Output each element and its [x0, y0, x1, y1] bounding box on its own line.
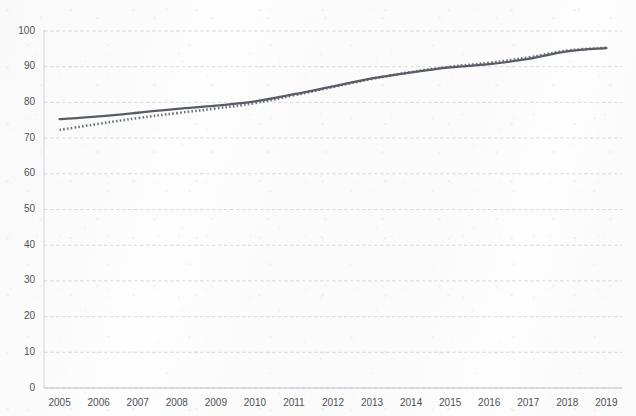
axis-lines: [44, 30, 622, 388]
x-tick-label-2010: 2010: [235, 397, 275, 408]
x-tick-label-2018: 2018: [547, 397, 587, 408]
x-tick-label-2019: 2019: [586, 397, 626, 408]
x-tick-label-2017: 2017: [508, 397, 548, 408]
x-tick-label-2013: 2013: [352, 397, 392, 408]
x-tick-label-2007: 2007: [118, 397, 158, 408]
x-tick-label-2016: 2016: [469, 397, 509, 408]
x-tick-label-2014: 2014: [391, 397, 431, 408]
y-tick-label-80: 80: [0, 96, 35, 107]
x-tick-label-2015: 2015: [430, 397, 470, 408]
x-tick-label-2011: 2011: [274, 397, 314, 408]
y-tick-label-50: 50: [0, 203, 35, 214]
y-tick-label-70: 70: [0, 132, 35, 143]
line-chart: 0102030405060708090100 20052006200720082…: [0, 0, 636, 416]
series-line-1-solid: [60, 48, 607, 119]
y-tick-label-40: 40: [0, 239, 35, 250]
x-tick-label-2008: 2008: [157, 397, 197, 408]
y-tick-label-60: 60: [0, 167, 35, 178]
x-tick-label-2012: 2012: [313, 397, 353, 408]
y-tick-label-30: 30: [0, 274, 35, 285]
y-tick-label-20: 20: [0, 310, 35, 321]
x-tick-label-2005: 2005: [40, 397, 80, 408]
y-tick-label-0: 0: [0, 382, 35, 393]
y-tick-label-10: 10: [0, 346, 35, 357]
gridlines: [44, 31, 622, 388]
plot-area: [0, 0, 636, 416]
y-tick-label-90: 90: [0, 60, 35, 71]
x-tick-label-2006: 2006: [79, 397, 119, 408]
series-lines: [60, 48, 607, 130]
x-tick-label-2009: 2009: [196, 397, 236, 408]
y-tick-label-100: 100: [0, 25, 35, 36]
